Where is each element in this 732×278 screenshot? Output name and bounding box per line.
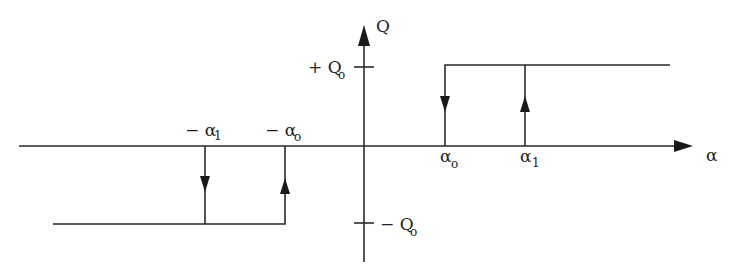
lower-branch	[53, 146, 285, 224]
svg-text:1: 1	[214, 129, 222, 143]
minus-alpha1-label: − α 1	[185, 120, 222, 143]
minus-q0-label: − Q o	[380, 214, 417, 239]
plus-q0-label: + Q o	[308, 57, 345, 82]
up-arrow-icon	[520, 96, 530, 112]
alpha1-label: α 1	[520, 146, 540, 170]
alpha-axis-label: α	[706, 145, 718, 165]
svg-text:o: o	[294, 130, 301, 144]
down-arrow-icon	[200, 176, 210, 192]
q-axis-arrow-icon	[358, 25, 370, 46]
hysteresis-diagram: α Q + Q o − Q o − α 1 − α o α o α 1	[0, 0, 732, 278]
svg-text:− α: − α	[265, 120, 297, 140]
upper-branch	[445, 65, 670, 146]
svg-text:α: α	[520, 146, 532, 166]
svg-text:o: o	[338, 68, 345, 82]
svg-text:o: o	[451, 157, 458, 171]
alpha0-label: α o	[440, 146, 458, 171]
q-axis-label: Q	[376, 16, 390, 36]
svg-text:+ Q: + Q	[308, 57, 342, 77]
up-arrow-icon	[280, 178, 290, 194]
svg-text:o: o	[410, 225, 417, 239]
svg-text:− α: − α	[185, 120, 217, 140]
svg-text:1: 1	[532, 156, 540, 170]
alpha-axis-arrow-icon	[674, 140, 693, 152]
svg-text:− Q: − Q	[380, 214, 414, 234]
minus-alpha0-label: − α o	[265, 120, 301, 144]
down-arrow-icon	[440, 96, 450, 112]
